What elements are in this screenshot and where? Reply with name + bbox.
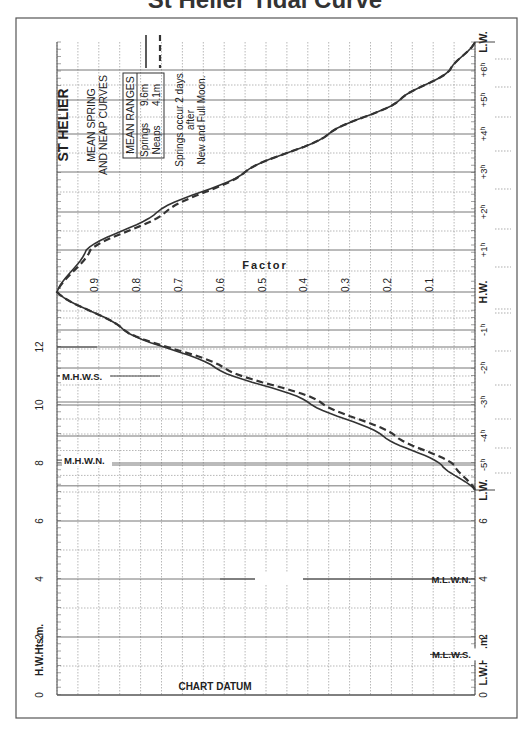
lw-height-tick: 0 [478,692,489,698]
springs-value: 9.6m [139,84,150,106]
mhws-label: M.H.W.S. [62,371,102,382]
factor-axis-title: Factor [242,259,288,271]
note-line-2: after [185,109,196,130]
time-tick-label: -4ʰ [478,430,489,442]
time-tick-label: -5ʰ [478,459,489,471]
subtitle-line-1: MEAN SPRING [85,88,97,162]
hw-height-tick: 12 [34,341,45,353]
subtitle-line-2: AND NEAP CURVES [97,75,109,175]
factor-tick-label: 0.1 [424,278,435,292]
tidal-curve-chart: ST HELIERMEAN SPRINGAND NEAP CURVESMEAN … [0,0,530,739]
mhwn-label: M.H.W.N. [64,455,105,466]
time-tick-label: -3ʰ [478,396,489,408]
time-tick-label: +6ʰ [478,62,489,77]
hw-height-tick: 4 [34,576,45,582]
neaps-value: 4.1m [151,84,162,106]
mlwn-label: M.L.W.N. [431,574,471,585]
factor-tick-label: 0.4 [298,278,309,292]
time-tick-label: +2ʰ [478,204,489,219]
hw-height-tick: 8 [34,460,45,466]
chart-datum-label: CHART DATUM [178,681,251,692]
lw-height-tick: 4 [478,576,489,582]
time-tick-label: +1ʰ [478,242,489,257]
time-tick-label: +4ʰ [478,126,489,141]
factor-tick-label: 0.6 [215,278,226,292]
time-tick-label: H.W. [477,281,489,304]
springs-label: Springs [139,123,150,157]
factor-tick-label: 0.2 [382,278,393,292]
mean-ranges-header: MEAN RANGES [124,76,136,154]
mlws-label-bg [465,648,513,660]
time-tick-label: -2ʰ [478,362,489,374]
neaps-label: Neaps [151,126,162,155]
factor-tick-label: 0.5 [257,278,268,292]
time-tick-label: +3ʰ [478,164,489,179]
mlwn-label-bg [255,573,303,585]
time-tick-label: -1ʰ [478,324,489,336]
hw-heights-label: H.W.Hts.m. [34,624,45,676]
factor-tick-label: 0.7 [173,278,184,292]
note-line-1: Springs occur 2 days [174,73,185,166]
hw-height-tick: 10 [34,399,45,411]
mlws-label: M.L.W.S. [432,649,471,660]
note-line-3: New and Full Moon. [196,76,207,165]
factor-tick-label: 0.9 [89,278,100,292]
port-name: ST HELIER [55,88,71,161]
hw-height-tick: 6 [34,518,45,524]
hw-height-tick: 0 [34,692,45,698]
time-tick-label: +5ʰ [478,92,489,107]
factor-tick-label: 0.3 [340,278,351,292]
lw-height-tick: 6 [478,518,489,524]
factor-tick-label: 0.8 [131,278,142,292]
